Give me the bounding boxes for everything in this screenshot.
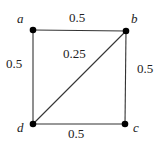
weight-a-d: 0.5: [6, 56, 22, 71]
node-label-a: a: [17, 11, 24, 26]
node-d: [30, 121, 37, 128]
edge-b-c: [125, 31, 126, 124]
weight-d-b: 0.25: [63, 46, 86, 61]
weight-d-c: 0.5: [68, 126, 84, 141]
node-b: [123, 28, 130, 35]
edge-weights: 0.5 0.5 0.5 0.5 0.25: [6, 10, 153, 141]
node-label-b: b: [131, 11, 138, 26]
node-a: [30, 27, 37, 34]
weight-b-c: 0.5: [137, 61, 153, 76]
weight-a-b: 0.5: [69, 10, 85, 25]
node-label-c: c: [133, 120, 139, 135]
edges: [33, 30, 126, 124]
weighted-graph-diagram: a b c d 0.5 0.5 0.5 0.5 0.25: [0, 0, 162, 143]
node-c: [122, 121, 129, 128]
edge-a-b: [33, 30, 126, 31]
edge-d-b: [33, 31, 126, 124]
node-label-d: d: [17, 120, 24, 135]
